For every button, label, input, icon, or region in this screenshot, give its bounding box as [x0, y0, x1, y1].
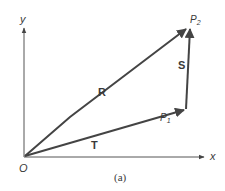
origin-label: O [19, 163, 28, 174]
vector-t-label: T [91, 140, 98, 151]
p1-base: P [160, 112, 167, 123]
figure-caption: (a) [114, 172, 126, 183]
vector-s [186, 29, 190, 109]
point-p1-label: P1 [160, 113, 171, 124]
vector-diagram: y x O P2 P1 R T S (a) [0, 0, 225, 191]
vector-s-label: S [178, 60, 185, 71]
diagram-canvas [0, 0, 225, 191]
point-p2-label: P2 [190, 15, 201, 26]
p2-subscript: 2 [197, 19, 201, 26]
p2-base: P [190, 14, 197, 25]
p1-subscript: 1 [167, 117, 171, 124]
x-axis-label: x [210, 151, 216, 162]
y-axis-label: y [20, 14, 26, 25]
vector-r-label: R [98, 87, 106, 98]
